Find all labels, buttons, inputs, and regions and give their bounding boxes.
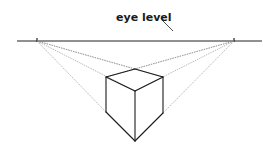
eye-level-label: eye level (116, 12, 172, 23)
cube-edge (106, 77, 135, 91)
cube-edge (135, 77, 163, 91)
cube-edge (135, 69, 163, 77)
cube-edge (106, 69, 135, 77)
cube-edge (135, 113, 163, 141)
cube-edge (106, 112, 135, 141)
right-construction-line (163, 41, 234, 113)
cube-edges (106, 69, 163, 141)
left-construction-line (37, 41, 106, 112)
